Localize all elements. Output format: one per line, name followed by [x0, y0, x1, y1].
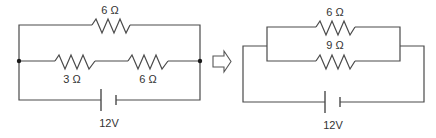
- top-branch-wire: [19, 25, 200, 61]
- original-circuit: [17, 19, 202, 111]
- outer-loop-wire: [243, 46, 424, 102]
- circuit-drawing: [0, 0, 436, 138]
- circuit-diagram: 6 Ω 3 Ω 6 Ω 12V 6 Ω 9 Ω 12V: [0, 0, 436, 138]
- label-middle-6ohm-resistor: 6 Ω: [139, 73, 156, 85]
- label-9ohm-resistor: 9 Ω: [326, 39, 343, 51]
- label-6ohm-resistor: 6 Ω: [326, 6, 343, 18]
- label-battery-voltage: 12V: [99, 117, 119, 129]
- resistor-6ohm-icon: [316, 21, 355, 35]
- resistor-3ohm-icon: [55, 55, 95, 69]
- label-battery-voltage: 12V: [323, 119, 343, 131]
- resistor-9ohm-icon: [316, 55, 355, 69]
- junction-right-icon: [198, 59, 202, 63]
- label-top-resistor: 6 Ω: [101, 4, 118, 16]
- simplified-circuit: [243, 21, 424, 113]
- resistor-middle-6ohm-icon: [128, 55, 168, 69]
- resistor-top-6ohm-icon: [92, 19, 130, 33]
- label-3ohm-resistor: 3 Ω: [63, 73, 80, 85]
- junction-left-icon: [17, 59, 21, 63]
- right-hollow-arrow-icon: [213, 51, 231, 72]
- bottom-wire: [19, 61, 200, 100]
